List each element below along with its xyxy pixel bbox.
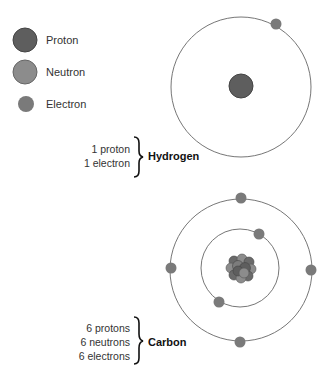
hydrogen-electron: [271, 19, 282, 30]
carbon-outer-electron: [236, 193, 247, 204]
carbon-brace: [134, 317, 143, 364]
proton-legend-icon: [13, 28, 37, 52]
carbon-label: Carbon: [148, 336, 187, 348]
carbon-nucleus: [226, 254, 256, 283]
hydrogen-label: Hydrogen: [148, 150, 199, 162]
carbon-count-electrons: 6 electrons: [10, 350, 130, 362]
legend-label-neutron: Neutron: [46, 66, 85, 78]
carbon-outer-electron: [166, 263, 177, 274]
hydrogen-nucleus-proton: [229, 74, 253, 98]
neutron-legend-icon: [13, 60, 37, 84]
legend-label-proton: Proton: [46, 34, 78, 46]
hydrogen-atom: [171, 17, 311, 157]
carbon-outer-electron: [235, 337, 246, 348]
atom-diagram: [0, 0, 325, 377]
carbon-inner-electron: [214, 297, 225, 308]
electron-legend-icon: [18, 96, 34, 112]
carbon-atom: [166, 193, 317, 348]
hydrogen-count-protons: 1 proton: [10, 143, 130, 155]
carbon-count-neutrons: 6 neutrons: [10, 336, 130, 348]
hydrogen-brace: [134, 137, 143, 177]
legend-label-electron: Electron: [46, 98, 86, 110]
carbon-outer-electron: [306, 265, 317, 276]
carbon-inner-electron: [254, 229, 265, 240]
hydrogen-count-electrons: 1 electron: [10, 157, 130, 169]
carbon-count-protons: 6 protons: [10, 322, 130, 334]
